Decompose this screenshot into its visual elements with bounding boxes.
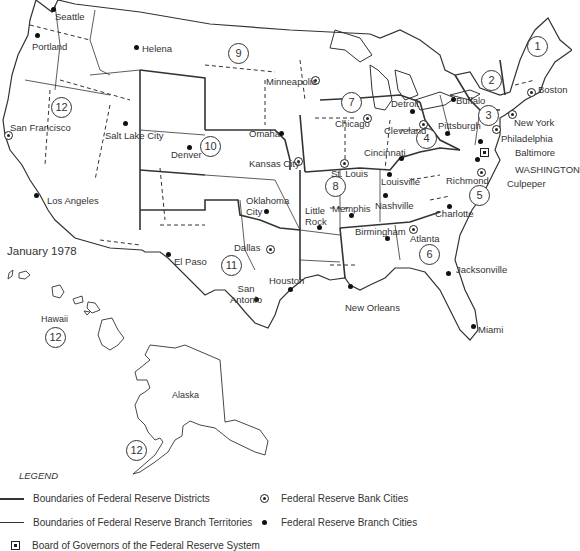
city-buffalo: Buffalo [456,95,485,106]
branch-city-marker [383,193,388,198]
region-hawaii: Hawaii [41,314,68,325]
district-12-hawaii: 12 [45,327,66,348]
district-3: 3 [478,105,499,126]
legend-bank-cities: Federal Reserve Bank Cities [257,493,408,504]
district-11: 11 [221,255,242,276]
city-nashville: Nashville [375,200,414,211]
city-salt-lake-city: Salt Lake City [105,130,164,141]
city-los-angeles: Los Angeles [47,195,99,206]
city-cincinnati: Cincinnati [364,147,406,158]
branch-city-marker [288,287,293,292]
district-1: 1 [527,36,548,57]
legend-label: Federal Reserve Bank Cities [281,493,408,504]
city-little-rock: Little Rock [305,205,335,227]
district-9: 9 [228,43,249,64]
city-denver: Denver [171,149,202,160]
city-chicago: Chicago [335,118,370,129]
district-12-alaska: 12 [126,440,147,461]
legend-title: LEGEND [19,470,58,481]
city-san-francisco: San Francisco [10,122,71,133]
bank-city-marker [266,245,275,254]
district-12-west: 12 [51,97,72,118]
branch-city-marker [123,121,128,126]
branch-city-marker [446,271,451,276]
branch-city-marker [410,109,415,114]
district-2: 2 [481,70,502,91]
city-cleveland: Cleveland [384,125,426,136]
branch-city-marker [134,45,139,50]
district-5: 5 [469,185,490,206]
branch-city-marker [445,131,450,136]
district-8: 8 [325,176,346,197]
legend-branch-boundaries: Boundaries of Federal Reserve Branch Ter… [0,517,252,528]
city-jacksonville: Jacksonville [456,264,507,275]
branch-city-marker [475,157,480,162]
branch-city-marker [34,193,39,198]
city-baltimore: Baltimore [515,147,555,158]
region-alaska: Alaska [172,390,199,401]
city-birmingham: Birmingham [355,226,406,237]
city-helena: Helena [142,43,172,54]
city-charlotte: Charlotte [435,208,474,219]
branch-city-marker [35,33,40,38]
city-memphis: Memphis [332,203,371,214]
city-detroit: Detroit [391,98,419,109]
city-atlanta: Atlanta [410,233,440,244]
legend-board: Board of Governors of the Federal Reserv… [8,540,260,551]
city-new-orleans: New Orleans [345,302,400,313]
city-kansas-city: Kansas City [249,158,300,169]
city-richmond: Richmond [446,175,489,186]
legend-label: Boundaries of Federal Reserve Branch Ter… [33,517,252,528]
branch-city-marker [471,324,476,329]
board-of-governors-icon [8,541,22,551]
city-minneapolis: Minneapolis [266,76,317,87]
legend-label: Boundaries of Federal Reserve Districts [33,493,210,504]
branch-city-icon [257,518,271,528]
city-seattle: Seattle [55,11,85,22]
branch-city-marker [348,284,353,289]
bank-city-marker [492,125,501,134]
district-10: 10 [200,136,221,157]
legend-label: Board of Governors of the Federal Reserv… [32,540,260,551]
legend-branch-cities: Federal Reserve Branch Cities [257,517,417,528]
city-washington: WASHINGTON [515,164,580,175]
city-boston: Boston [538,84,568,95]
heavy-line-icon [0,498,24,500]
city-new-york: New York [514,117,554,128]
city-philadelphia: Philadelphia [501,133,553,144]
city-oklahoma-city: Oklahoma City [246,195,291,217]
branch-city-marker [478,139,483,144]
bank-city-marker [527,88,536,97]
city-portland: Portland [32,41,67,52]
city-culpeper: Culpeper [507,178,546,189]
city-miami: Miami [478,324,503,335]
legend-label: Federal Reserve Branch Cities [281,517,417,528]
city-omaha: Omaha [249,128,280,139]
city-san-antonio: San Antonio [228,283,264,305]
map-date-title: January 1978 [7,245,77,257]
district-7: 7 [341,92,362,113]
bank-city-marker [340,159,349,168]
legend-district-boundaries: Boundaries of Federal Reserve Districts [0,493,210,504]
city-pittsburgh: Pittsburgh [438,120,481,131]
city-louisville: Louisville [381,176,420,187]
bank-city-icon [257,494,271,504]
board-of-governors-marker [480,148,489,157]
thin-line-icon [0,522,24,523]
city-st-louis: St. Louis [331,168,368,179]
city-el-paso: El Paso [174,256,207,267]
city-houston: Houston [269,275,304,286]
branch-city-marker [166,252,171,257]
city-dallas: Dallas [234,242,260,253]
district-6: 6 [419,244,440,265]
